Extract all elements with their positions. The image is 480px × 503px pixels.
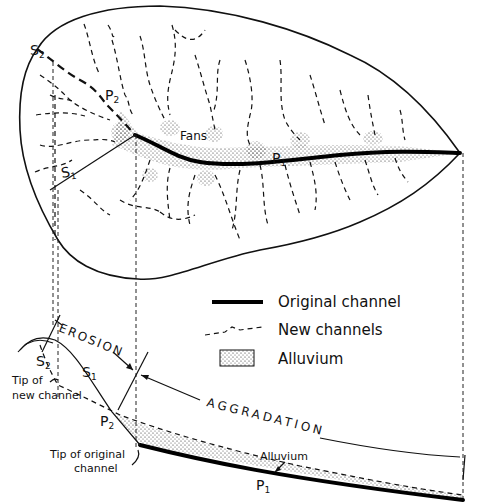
label-tip-new-channel-2: new channel bbox=[12, 389, 82, 402]
label-s2-plan: S2 bbox=[30, 42, 45, 60]
aggradation-arrow bbox=[141, 375, 200, 400]
label-s1-profile: S1 bbox=[82, 364, 97, 382]
drainage-basin-diagram: S2 P2 Fans P1 S1 Original channel New ch… bbox=[0, 0, 480, 503]
tip-original-channel-arrow bbox=[132, 450, 139, 465]
legend-label-original-channel: Original channel bbox=[278, 293, 401, 311]
label-s1-plan: S1 bbox=[60, 163, 78, 183]
fan-lobe bbox=[363, 131, 383, 145]
label-p1-profile: P1 bbox=[256, 477, 270, 495]
profile-view: EROSION AGGRADATION S2 S1 P2 P1 Tip of n… bbox=[11, 315, 465, 500]
legend-label-new-channels: New channels bbox=[278, 321, 383, 339]
fan-lobe bbox=[205, 126, 223, 142]
fan-lobe bbox=[160, 120, 180, 136]
legend-swatch-alluvium bbox=[220, 350, 254, 366]
label-fans: Fans bbox=[180, 129, 207, 143]
aggradation-arrowhead bbox=[141, 375, 149, 380]
fan-lobe bbox=[142, 168, 158, 182]
tip-new-channel-arrow bbox=[50, 379, 58, 382]
basin-outline bbox=[20, 6, 460, 279]
label-aggradation: AGGRADATION bbox=[205, 395, 326, 438]
label-tip-original-1: Tip of original bbox=[49, 448, 125, 461]
hillslope-profile-inner bbox=[18, 340, 53, 352]
fan-lobe bbox=[197, 170, 215, 186]
outlet-vertical-line bbox=[463, 455, 465, 480]
label-tip-new-channel-1: Tip of bbox=[11, 374, 44, 387]
aggradation-extent-line bbox=[320, 438, 460, 457]
label-p2-profile: P2 bbox=[100, 413, 114, 431]
label-p2-plan: P2 bbox=[105, 87, 119, 105]
legend-label-alluvium: Alluvium bbox=[278, 350, 343, 368]
s1-line bbox=[50, 135, 135, 190]
legend-swatch-new-channels bbox=[205, 327, 262, 335]
legend: Original channel New channels Alluvium bbox=[205, 293, 401, 368]
label-tip-original-2: channel bbox=[74, 462, 118, 475]
label-erosion: EROSION bbox=[57, 321, 126, 360]
plan-view: S2 P2 Fans P1 S1 bbox=[20, 6, 463, 500]
label-s2-profile: S2 bbox=[36, 353, 51, 371]
label-alluvium-profile: Alluvium bbox=[260, 450, 308, 463]
